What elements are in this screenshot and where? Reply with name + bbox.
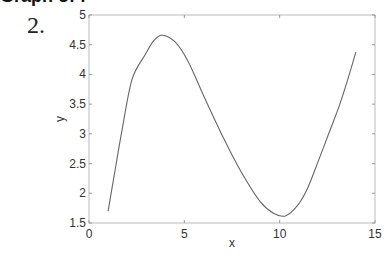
y-tick-label: 2: [79, 186, 86, 200]
x-tick-label: 10: [273, 227, 287, 241]
y-axis-label: y: [53, 116, 67, 122]
tick-labels: 0510151.522.533.544.55: [69, 8, 382, 241]
y-tick-label: 4: [79, 67, 86, 81]
x-axis-label: x: [229, 236, 235, 250]
x-tick-label: 5: [181, 227, 188, 241]
x-tick-label: 15: [368, 227, 382, 241]
x-tick-label: 0: [86, 227, 93, 241]
y-tick-label: 4.5: [69, 38, 86, 52]
y-tick-label: 3.5: [69, 97, 86, 111]
data-series-line: [108, 35, 356, 216]
axis-ticks: [89, 15, 375, 223]
y-tick-label: 1.5: [69, 216, 86, 230]
y-tick-label: 2.5: [69, 157, 86, 171]
y-tick-label: 3: [79, 127, 86, 141]
plot-border: [89, 15, 375, 223]
plot-frame: [89, 15, 375, 223]
line-chart: 0510151.522.533.544.55 x y: [0, 0, 392, 256]
y-tick-label: 5: [79, 8, 86, 22]
